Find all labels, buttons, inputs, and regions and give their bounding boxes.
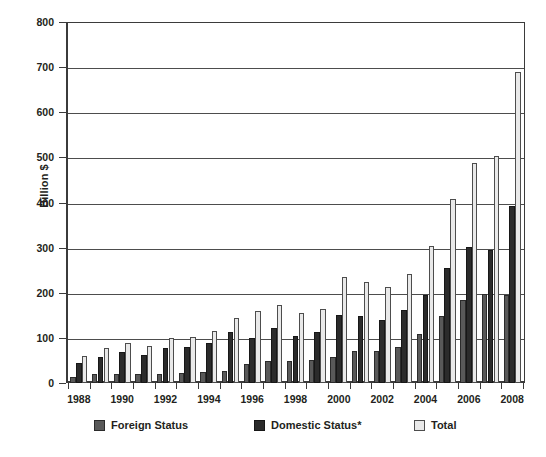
x-tick-mark (155, 383, 156, 389)
y-tick-mark-300 (59, 248, 66, 249)
bar-group (306, 22, 328, 383)
x-axis-ticks (66, 383, 525, 391)
bar-group (436, 22, 458, 383)
bar (330, 357, 336, 383)
y-tick-label-700: 700 (20, 61, 54, 73)
bar (460, 300, 466, 383)
x-tick-label-1988: 1988 (57, 393, 101, 405)
x-tick-mark (436, 383, 437, 389)
bar (119, 352, 125, 383)
x-tick-mark (68, 383, 69, 389)
x-tick-label-2004: 2004 (404, 393, 448, 405)
bar-series-layer (68, 22, 523, 383)
bar (169, 338, 175, 383)
x-tick-mark (241, 383, 242, 389)
chart-legend: Foreign StatusDomestic Status*Total (66, 419, 525, 439)
bar (265, 361, 271, 383)
bar (407, 274, 413, 383)
bar-group (501, 22, 523, 383)
bar (423, 295, 429, 383)
bar (466, 247, 472, 383)
bar (482, 294, 488, 383)
bar (504, 295, 510, 383)
bar-group (458, 22, 480, 383)
bar (104, 348, 110, 383)
x-tick-mark (393, 383, 394, 389)
legend-item-domestic[interactable]: Domestic Status* (254, 419, 361, 431)
bar (439, 316, 445, 383)
bar-group (111, 22, 133, 383)
bar-group (198, 22, 220, 383)
y-tick-mark-600 (59, 112, 66, 113)
bar-group (393, 22, 415, 383)
legend-item-total[interactable]: Total (414, 419, 456, 431)
y-tick-mark-100 (59, 338, 66, 339)
x-tick-mark (176, 383, 177, 389)
bar (179, 373, 185, 383)
bar (184, 347, 190, 383)
x-tick-label-1998: 1998 (274, 393, 318, 405)
y-tick-label-500: 500 (20, 151, 54, 163)
x-tick-mark (285, 383, 286, 389)
y-tick-label-0: 0 (20, 377, 54, 389)
y-tick-mark-400 (59, 203, 66, 204)
y-tick-label-600: 600 (20, 106, 54, 118)
bar (222, 371, 228, 383)
bar (494, 156, 500, 383)
bar (309, 360, 315, 383)
bar (450, 199, 456, 383)
bar (401, 310, 407, 383)
x-tick-mark (133, 383, 134, 389)
bar (206, 343, 212, 383)
bar (249, 338, 255, 383)
bar (314, 332, 320, 383)
bar (255, 311, 261, 383)
x-tick-mark (480, 383, 481, 389)
x-tick-mark (501, 383, 502, 389)
y-tick-label-300: 300 (20, 242, 54, 254)
bar (364, 282, 370, 383)
bar (234, 318, 240, 383)
bar-group (263, 22, 285, 383)
x-tick-mark (350, 383, 351, 389)
bar (299, 313, 305, 383)
bar (277, 305, 283, 383)
y-tick-label-200: 200 (20, 287, 54, 299)
y-tick-label-400: 400 (20, 197, 54, 209)
legend-swatch-total-icon (414, 420, 425, 431)
chart-root: Billion $ 0100200300400500600700800 1988… (0, 0, 546, 457)
bar (379, 320, 385, 383)
bar (358, 316, 364, 383)
bar (488, 250, 494, 383)
y-tick-mark-0 (59, 383, 66, 384)
bar (352, 351, 358, 383)
bar-group (68, 22, 90, 383)
bar (509, 206, 515, 383)
bar-group (350, 22, 372, 383)
legend-label: Foreign Status (111, 419, 188, 431)
bar-group (480, 22, 502, 383)
bar (271, 328, 277, 383)
x-tick-label-2002: 2002 (360, 393, 404, 405)
y-tick-label-800: 800 (20, 16, 54, 28)
y-axis-title: Billion $ (38, 126, 50, 246)
legend-swatch-foreign-icon (94, 420, 105, 431)
bar (374, 351, 380, 383)
bar-group (328, 22, 350, 383)
bar (190, 337, 196, 383)
x-axis-labels: 1988199019921994199619982000200220042006… (0, 393, 546, 409)
x-tick-mark (111, 383, 112, 389)
bar-group (371, 22, 393, 383)
x-tick-mark (458, 383, 459, 389)
bar (125, 343, 131, 383)
bar (244, 364, 250, 383)
bar (336, 315, 342, 383)
legend-label: Total (431, 419, 456, 431)
x-tick-mark (371, 383, 372, 389)
bar (385, 287, 391, 383)
legend-item-foreign[interactable]: Foreign Status (94, 419, 188, 431)
x-tick-mark (415, 383, 416, 389)
y-tick-mark-200 (59, 293, 66, 294)
x-tick-label-2000: 2000 (317, 393, 361, 405)
x-tick-label-1990: 1990 (100, 393, 144, 405)
